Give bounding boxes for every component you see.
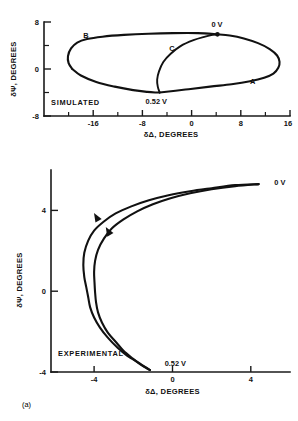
x-axis-title: δΔ, DEGREES	[145, 387, 200, 396]
y-tick-label: 0	[35, 65, 39, 74]
y-tick-label: -4	[39, 368, 46, 377]
chart-experimental: 4 0 -4 -4 0 4 δΔ, DEGREES δΨ, DEGREES 0 …	[0, 150, 298, 421]
x-tick-label: 8	[239, 119, 243, 128]
curve-forward-sweep	[83, 184, 258, 370]
y-axis-title: δΨ, DEGREES	[15, 252, 24, 307]
annotation-point-a: A	[250, 77, 256, 86]
curve-outer-upper-branch	[68, 33, 218, 69]
data-curves-simulated	[68, 33, 280, 92]
curve-branch-a	[160, 34, 280, 92]
x-tick-label: 4	[249, 375, 254, 384]
annotation-052v: 0.52 V	[165, 359, 186, 368]
figure-container: 8 0 -8 -16 -8 0 8 16 δΔ, DEGREES δΨ, DEG…	[0, 0, 298, 421]
annotation-0v: 0 V	[211, 20, 222, 29]
direction-arrow-icon	[94, 213, 102, 223]
x-tick-label: -4	[91, 375, 98, 384]
condition-label-simulated: SIMULATED	[51, 98, 100, 107]
y-tick-label: 8	[35, 18, 39, 27]
x-tick-label: -16	[88, 119, 99, 128]
node-marker-0v	[215, 32, 220, 37]
data-curves-experimental	[83, 184, 258, 370]
x-tick-label: 0	[190, 119, 194, 128]
x-tick-label: 0	[170, 375, 174, 384]
y-axis-title: δΨ, DEGREES	[9, 41, 18, 96]
annotation-point-b: B	[83, 31, 88, 40]
y-tick-label: 0	[42, 287, 46, 296]
condition-label-experimental: EXPERIMENTAL	[58, 349, 124, 358]
curve-inner-branch-c	[157, 34, 217, 92]
y-tick-label: 4	[42, 206, 47, 215]
annotation-point-c: C	[169, 44, 175, 53]
x-axis-title: δΔ, DEGREES	[144, 130, 199, 139]
y-tick-label: -8	[32, 112, 39, 121]
x-tick-label: -8	[139, 119, 146, 128]
chart-simulated: 8 0 -8 -16 -8 0 8 16 δΔ, DEGREES δΨ, DEG…	[0, 0, 298, 150]
annotation-0v: 0 V	[274, 178, 285, 187]
panel-caption: (a)	[22, 400, 31, 409]
annotation-052v: 0.52 V	[146, 97, 167, 106]
curve-outer-lower-branch	[72, 69, 159, 93]
x-tick-label: 16	[284, 119, 292, 128]
